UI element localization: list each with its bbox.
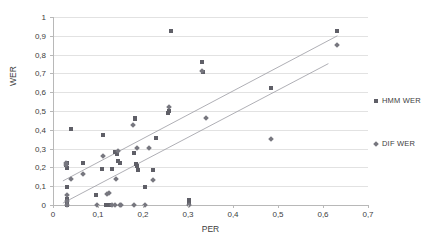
x-tick-mark [368,205,369,208]
x-tick-label: 0 [51,210,55,219]
x-tick-mark [53,205,54,208]
y-tick-mark [50,130,53,131]
y-tick-mark [50,92,53,93]
y-tick-mark [50,167,53,168]
x-tick-mark [233,205,234,208]
x-tick-label: 0,5 [272,210,283,219]
x-tick-label: 0,2 [137,210,148,219]
square-marker-icon [374,99,378,103]
legend-label: HMM WER [382,96,421,105]
legend-label: DIF WER [382,139,415,148]
x-tick-label: 0,7 [362,210,373,219]
diamond-marker-icon [373,141,379,147]
x-tick-label: 0,4 [227,210,238,219]
y-tick-mark [50,73,53,74]
x-tick-label: 0,6 [317,210,328,219]
y-tick-mark [50,17,53,18]
y-tick-mark [50,149,53,150]
x-tick-label: 0,1 [92,210,103,219]
y-axis-title: WER [8,66,18,86]
chart-legend: HMM WER DIF WER [374,96,421,148]
x-tick-mark [323,205,324,208]
legend-item-dif-wer: DIF WER [374,139,421,148]
y-tick-mark [50,36,53,37]
y-tick-mark [50,55,53,56]
x-tick-mark [188,205,189,208]
y-tick-mark [50,111,53,112]
legend-item-hmm-wer: HMM WER [374,96,421,105]
x-tick-mark [98,205,99,208]
x-axis-title: PER [53,224,368,234]
x-tick-mark [278,205,279,208]
x-tick-label: 0,3 [182,210,193,219]
x-tick-mark [143,205,144,208]
y-tick-mark [50,186,53,187]
scatter-chart: 00,10,20,30,40,50,60,70,80,91 00,10,20,3… [0,0,445,249]
